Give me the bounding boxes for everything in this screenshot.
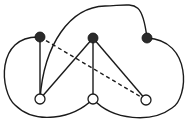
open-node-b2 <box>88 94 98 104</box>
edge-a2-b1 <box>40 38 93 99</box>
edge-a3-b2 <box>93 38 184 118</box>
open-node-b1 <box>35 94 45 104</box>
open-node-b3 <box>141 95 151 105</box>
graph-diagram <box>0 0 190 121</box>
filled-node-a1 <box>35 32 45 42</box>
edge-a1-b2 <box>4 37 93 117</box>
filled-node-a2 <box>88 33 98 43</box>
filled-node-a3 <box>142 33 152 43</box>
edge-a2-b3 <box>93 38 146 100</box>
graph-svg <box>0 0 190 121</box>
